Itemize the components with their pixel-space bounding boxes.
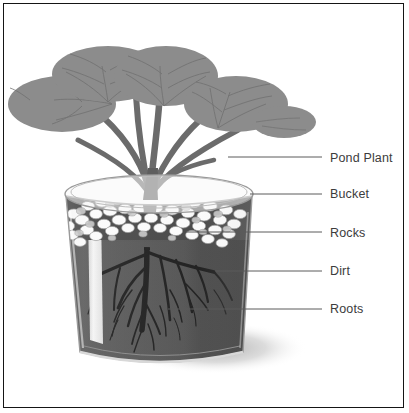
label-layer: Pond PlantBucketRocksDirtRoots [0, 0, 409, 413]
label-rocks: Rocks [330, 227, 365, 240]
label-roots: Roots [330, 303, 363, 316]
label-dirt: Dirt [330, 265, 350, 278]
label-bucket: Bucket [330, 188, 369, 201]
label-pond-plant: Pond Plant [330, 152, 393, 165]
diagram-canvas: Pond PlantBucketRocksDirtRoots [0, 0, 409, 413]
